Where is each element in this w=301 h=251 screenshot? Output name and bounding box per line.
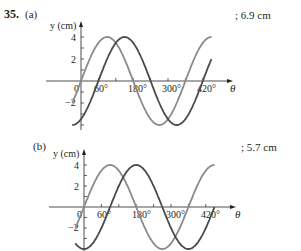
plots-canvas: [0, 0, 301, 251]
